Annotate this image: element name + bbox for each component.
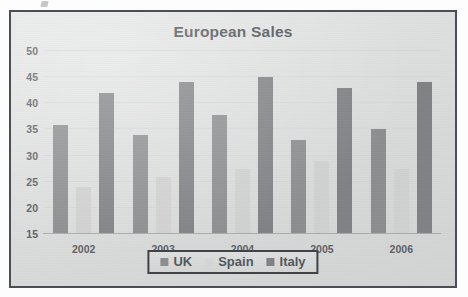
gridline-50: [44, 50, 441, 51]
legend-label: Italy: [280, 255, 306, 268]
bar-spain-2005: [314, 161, 329, 234]
legend-item-italy: Italy: [267, 255, 306, 268]
bar-spain-2003: [156, 177, 171, 235]
bar-italy-2002: [99, 93, 114, 234]
legend-item-spain: Spain: [205, 255, 253, 268]
y-tick-label: 15: [26, 228, 38, 240]
bar-spain-2004: [235, 169, 250, 234]
scan-artifact-speck: [40, 1, 48, 7]
bar-spain-2002: [76, 187, 91, 234]
bar-italy-2006: [417, 82, 432, 234]
x-axis-label-2006: 2006: [390, 243, 413, 255]
legend-label: Spain: [218, 255, 253, 268]
bar-uk-2002: [53, 125, 68, 234]
legend-swatch-spain-icon: [205, 258, 213, 266]
bar-spain-2006: [394, 169, 409, 234]
legend-swatch-italy-icon: [267, 258, 275, 266]
chart-frame: European Sales 1520253035404550 20022003…: [9, 10, 457, 288]
bar-uk-2003: [133, 135, 148, 234]
x-axis-label-2002: 2002: [72, 243, 95, 255]
y-tick-label: 35: [26, 123, 38, 135]
plot-area: 1520253035404550 20022003200420052006: [44, 51, 441, 234]
bar-italy-2003: [179, 82, 194, 234]
bar-italy-2004: [258, 77, 273, 234]
y-tick-label: 20: [26, 202, 38, 214]
legend-item-uk: UK: [160, 255, 192, 268]
gridline-45: [44, 76, 441, 77]
legend-swatch-uk-icon: [160, 258, 168, 266]
y-tick-label: 45: [26, 71, 38, 83]
legend-label: UK: [173, 255, 192, 268]
x-axis-line: [43, 233, 441, 234]
bar-uk-2006: [371, 129, 386, 234]
bar-italy-2005: [337, 88, 352, 234]
bar-uk-2005: [291, 140, 306, 234]
y-tick-label: 25: [26, 176, 38, 188]
y-tick-label: 30: [26, 150, 38, 162]
bar-uk-2004: [212, 115, 227, 234]
y-tick-label: 50: [26, 45, 38, 57]
chart-legend: UKSpainItaly: [147, 250, 318, 274]
y-tick-label: 40: [26, 97, 38, 109]
chart-title: European Sales: [11, 23, 455, 41]
